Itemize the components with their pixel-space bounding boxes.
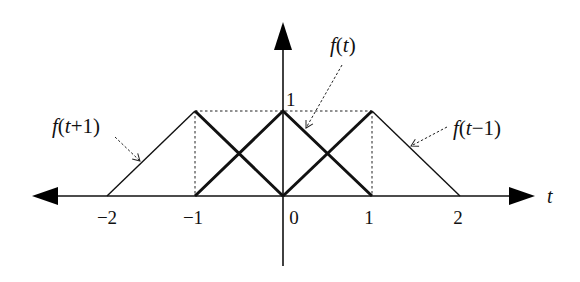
tick-label: 2 — [453, 207, 463, 228]
axis-up-arrow-icon — [274, 22, 292, 50]
leader-f-t-minus-1 — [411, 127, 447, 146]
axis-left-arrow-icon — [32, 187, 58, 205]
signal-shift-diagram: f(t) f(t+1) f(t−1) 1 t −2 −1 0 1 2 — [0, 0, 580, 282]
tick-label: 0 — [289, 207, 299, 228]
label-f-t-plus-1: f(t+1) — [52, 114, 100, 138]
curve-f-t-plus-1-thin — [107, 111, 195, 196]
tick-label: 1 — [364, 207, 374, 228]
label-f-t: f(t) — [330, 33, 356, 57]
curve-f-t-minus-1-thin — [372, 111, 460, 196]
x-axis-label: t — [547, 185, 553, 207]
leader-f-t-plus-1 — [115, 137, 140, 161]
label-f-t-minus-1: f(t−1) — [453, 116, 501, 140]
vertical-axis — [274, 22, 292, 266]
tick-label: −2 — [97, 207, 117, 228]
y-tick-label: 1 — [286, 89, 296, 110]
tick-labels: −2 −1 0 1 2 — [97, 207, 463, 228]
axis-right-arrow-icon — [509, 187, 535, 205]
leader-f-t — [306, 65, 342, 128]
tick-label: −1 — [183, 207, 203, 228]
